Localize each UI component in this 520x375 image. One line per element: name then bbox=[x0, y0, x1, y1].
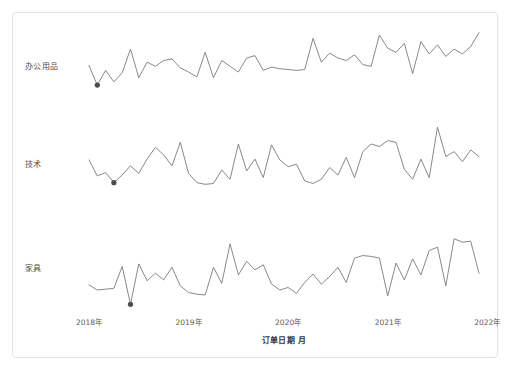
small-multiples-chart: 办公用品 技术 家具 2018年2019年2020年2021年2022年 订单日… bbox=[13, 13, 499, 359]
data-point-marker[interactable] bbox=[95, 83, 100, 88]
x-tick-2018: 2018年 bbox=[76, 319, 102, 327]
data-point-marker[interactable] bbox=[111, 180, 116, 185]
series-label-office-supplies: 办公用品 bbox=[25, 63, 58, 71]
x-tick-2020: 2020年 bbox=[275, 319, 301, 327]
series-label-furniture: 家具 bbox=[25, 265, 42, 273]
sparkline-path-0 bbox=[89, 33, 479, 85]
sparkline-path-1 bbox=[89, 127, 479, 184]
x-tick-2022: 2022年 bbox=[474, 319, 500, 327]
chart-card: 办公用品 技术 家具 2018年2019年2020年2021年2022年 订单日… bbox=[12, 12, 498, 358]
x-axis-title: 订单日期 月 bbox=[262, 337, 307, 345]
sparkline-layer bbox=[13, 13, 499, 359]
data-point-marker[interactable] bbox=[128, 302, 133, 307]
x-tick-2021: 2021年 bbox=[375, 319, 401, 327]
series-label-technology: 技术 bbox=[25, 161, 42, 169]
sparkline-path-2 bbox=[89, 239, 479, 305]
x-tick-2019: 2019年 bbox=[176, 319, 202, 327]
